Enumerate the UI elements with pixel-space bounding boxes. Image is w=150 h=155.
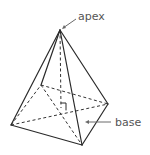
lateral-edge-back xyxy=(41,30,60,85)
base-edge-left-back xyxy=(11,85,41,125)
lateral-edge-left xyxy=(11,30,60,125)
pyramid-height-line xyxy=(60,30,61,108)
base-edge-front-left xyxy=(11,125,82,145)
apex-arrowhead-icon xyxy=(62,25,66,29)
apex-annotation: apex xyxy=(62,10,105,29)
pyramid-diagram: apex base xyxy=(0,0,150,155)
base-label: base xyxy=(115,116,141,129)
right-angle-marker xyxy=(61,103,66,110)
visible-edges xyxy=(11,30,108,145)
base-edge-front-right xyxy=(82,104,108,145)
base-arrowhead-icon xyxy=(85,120,89,124)
apex-label: apex xyxy=(78,10,105,23)
